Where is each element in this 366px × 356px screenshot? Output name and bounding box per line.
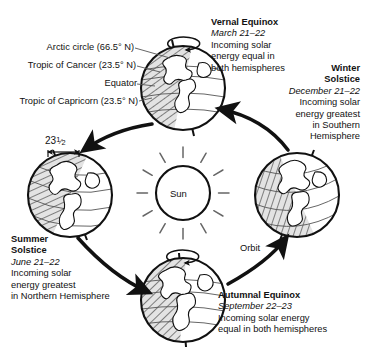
- seasons-diagram: Arctic circle (66.5° N) Tropic of Cancer…: [0, 0, 366, 356]
- summer-solstice-title-line-1: Summer: [11, 234, 110, 245]
- summer-solstice-line-3: in Northern Hemisphere: [11, 291, 110, 302]
- sun-label-text: Sun: [170, 188, 187, 199]
- label-arctic-circle-text: Arctic circle (66.5° N): [47, 42, 134, 52]
- autumnal-equinox-line-2: equal in both hemispheres: [218, 324, 327, 335]
- winter-solstice-title-line-1: Winter: [289, 63, 360, 74]
- axial-tilt-value: 23: [45, 135, 56, 146]
- orbit-arrow-vernal-to-summer: [84, 124, 152, 150]
- label-equator-text: Equator: [104, 78, 137, 88]
- winter-solstice-line-1: Incoming solar: [289, 97, 360, 108]
- orbit-arrow-winter-to-vernal: [220, 109, 288, 150]
- axial-tilt-label: 231⁄2: [45, 135, 66, 147]
- vernal-equinox-line-3: both hemispheres: [211, 63, 285, 74]
- autumnal-equinox-caption: Autumnal Equinox September 22–23 Incomin…: [218, 290, 327, 336]
- axial-tilt-fraction-denominator: 2: [62, 138, 66, 147]
- vernal-equinox-title: Vernal Equinox: [211, 17, 285, 28]
- label-arctic-circle: Arctic circle (66.5° N): [47, 42, 134, 52]
- winter-solstice-line-3: in Southern: [289, 120, 360, 131]
- vernal-equinox-line-1: Incoming solar: [211, 40, 285, 51]
- label-tropic-of-capricorn: Tropic of Capricorn (23.5° N): [19, 96, 138, 106]
- globe-summer-solstice: [15, 140, 112, 240]
- label-equator: Equator: [104, 78, 137, 88]
- autumnal-equinox-date: September 22–23: [218, 301, 327, 312]
- orbit-label-text: Orbit: [240, 243, 260, 253]
- globe-autumnal-equinox: [138, 250, 225, 347]
- winter-solstice-date: December 21–22: [289, 86, 360, 97]
- vernal-equinox-caption: Vernal Equinox March 21–22 Incoming sola…: [211, 17, 285, 74]
- sun-label: Sun: [170, 188, 187, 199]
- orbit-label: Orbit: [240, 243, 260, 253]
- summer-solstice-line-1: Incoming solar: [11, 268, 110, 279]
- autumnal-equinox-line-1: Incoming solar energy: [218, 313, 327, 324]
- autumnal-equinox-title: Autumnal Equinox: [218, 290, 327, 301]
- winter-solstice-title-line-2: Solstice: [289, 74, 360, 85]
- globe-winter-solstice: [242, 150, 339, 250]
- winter-solstice-line-4: Hemisphere: [289, 131, 360, 142]
- winter-solstice-caption: Winter Solstice December 21–22 Incoming …: [289, 63, 360, 143]
- vernal-equinox-line-2: energy equal in: [211, 51, 285, 62]
- summer-solstice-date: June 21–22: [11, 257, 110, 268]
- vernal-equinox-date: March 21–22: [211, 28, 285, 39]
- summer-solstice-title-line-2: Solstice: [11, 245, 110, 256]
- label-tropic-of-cancer: Tropic of Cancer (23.5° N): [28, 60, 136, 70]
- summer-solstice-line-2: energy greatest: [11, 280, 110, 291]
- label-tropic-of-capricorn-text: Tropic of Capricorn (23.5° N): [19, 96, 138, 106]
- label-tropic-of-cancer-text: Tropic of Cancer (23.5° N): [28, 60, 136, 70]
- winter-solstice-line-2: energy greatest: [289, 109, 360, 120]
- summer-solstice-caption: Summer Solstice June 21–22 Incoming sola…: [11, 234, 110, 302]
